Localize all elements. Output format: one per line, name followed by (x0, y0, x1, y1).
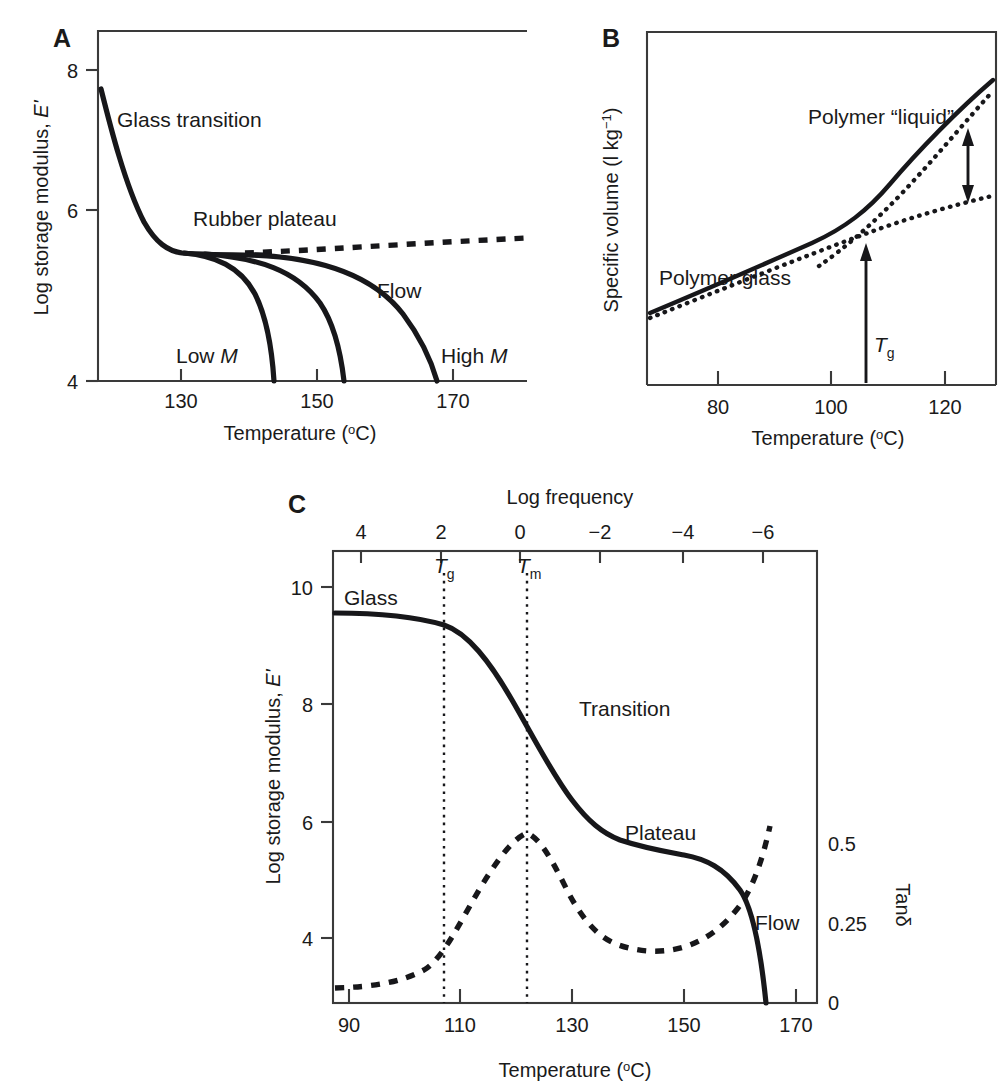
panel-b-glass-line-dotted (650, 196, 992, 318)
panel-c-label-flow: Flow (755, 911, 800, 934)
panel-c-xlabel-170: 170 (779, 1014, 812, 1036)
panel-c-y-axis-title-right: Tanδ (892, 883, 914, 926)
panel-b-free-volume-arrow-head-up (962, 128, 974, 146)
panel-c-top-axis-title: Log frequency (507, 486, 634, 508)
panel-c-ylabel-4: 4 (302, 928, 313, 950)
panel-c-ylabel-10: 10 (291, 577, 313, 599)
panel-c-x-axis-title: Temperature (oC) (499, 1059, 652, 1081)
panel-b-label-polymer-glass: Polymer glass (659, 266, 791, 289)
panel-a-xlabel-170: 170 (436, 390, 469, 412)
panel-c-label-glass: Glass (344, 586, 398, 609)
panel-a-rubber-plateau-dashed (245, 238, 527, 253)
panel-a-xlabel-130: 130 (164, 390, 197, 412)
panel-c-right-label-0: 0 (828, 992, 839, 1014)
panel-a-y-axis-title: Log storage modulus, E' (30, 99, 52, 315)
figure-svg: A 8 6 4 130 150 170 Temperature (oC) Log… (0, 0, 1007, 1087)
panel-c-xlabel-110: 110 (444, 1014, 476, 1036)
panel-c-tan-delta-curve (335, 826, 770, 988)
figure-container: A 8 6 4 130 150 170 Temperature (oC) Log… (0, 0, 1007, 1087)
panel-b-y-axis-title: Specific volume (l kg−1) (599, 108, 622, 313)
panel-c-storage-modulus-curve (335, 613, 766, 1003)
panel-a-ylabel-8: 8 (67, 60, 78, 82)
panel-a-ylabel-6: 6 (67, 200, 78, 222)
panel-a-label-glass-transition: Glass transition (117, 108, 262, 131)
panel-a-label-low-m: Low M (176, 344, 238, 367)
panel-c-label-tg: Tg (434, 554, 455, 582)
panel-c-label-transition: Transition (579, 697, 670, 720)
panel-c: C Log frequency 4 2 0 −2 −4 −6 90 110 13… (262, 486, 914, 1081)
panel-c-y-axis-title: Log storage modulus, E' (262, 668, 284, 884)
panel-c-top-label-0: 0 (514, 521, 525, 543)
panel-a-x-axis-title: Temperature (oC) (224, 422, 377, 444)
panel-b-x-axis-title: Temperature (oC) (752, 427, 905, 449)
panel-c-letter: C (288, 490, 306, 518)
panel-b: B 80 100 120 Temperature (oC) Specific v… (599, 24, 996, 449)
panel-b-xlabel-120: 120 (928, 396, 961, 418)
panel-a-label-flow: Flow (377, 279, 422, 302)
panel-c-xlabel-150: 150 (667, 1014, 700, 1036)
panel-b-tg-arrow-head (860, 243, 872, 261)
panel-c-right-label-05: 0.5 (828, 833, 856, 855)
panel-c-top-label-m6: −6 (752, 521, 775, 543)
panel-c-top-label-2: 2 (435, 521, 446, 543)
panel-b-xlabel-80: 80 (707, 396, 729, 418)
panel-c-label-plateau: Plateau (625, 821, 696, 844)
panel-c-top-label-m4: −4 (672, 521, 695, 543)
panel-c-xlabel-90: 90 (338, 1014, 360, 1036)
panel-a-frame (98, 31, 527, 381)
panel-a-label-high-m: High M (441, 344, 508, 367)
panel-a-xlabel-150: 150 (300, 390, 333, 412)
panel-a-letter: A (53, 24, 71, 52)
panel-c-label-tm: Tm (517, 554, 542, 582)
panel-c-right-label-025: 0.25 (828, 913, 867, 935)
panel-a-ylabel-4: 4 (67, 371, 78, 393)
panel-b-xlabel-100: 100 (814, 396, 847, 418)
panel-c-top-label-4: 4 (355, 521, 366, 543)
panel-c-ylabel-6: 6 (302, 812, 313, 834)
panel-b-letter: B (602, 24, 620, 52)
panel-c-ylabel-8: 8 (302, 694, 313, 716)
panel-a-label-rubber-plateau: Rubber plateau (193, 207, 337, 230)
panel-c-xlabel-130: 130 (555, 1014, 588, 1036)
panel-a: A 8 6 4 130 150 170 Temperature (oC) Log… (30, 24, 527, 444)
panel-b-label-polymer-liquid: Polymer “liquid” (808, 105, 954, 128)
panel-b-label-tg: Tg (874, 333, 895, 361)
panel-c-top-label-m2: −2 (589, 521, 612, 543)
